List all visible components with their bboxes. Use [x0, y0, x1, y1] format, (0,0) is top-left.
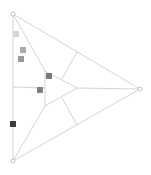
marker-1-square-marker — [13, 31, 19, 37]
diagram-svg — [0, 0, 151, 175]
vertex-right-circle-icon — [138, 87, 142, 91]
tick-lower-line — [62, 98, 77, 125]
marker-4-square-marker — [46, 73, 52, 79]
inner-tip-to-right-line — [77, 88, 140, 89]
marker-3-square-marker — [18, 56, 24, 62]
marker-2-square-marker — [20, 47, 26, 53]
marker-6-square-marker — [10, 121, 16, 127]
inner-lower-line — [45, 88, 77, 106]
top-to-inner-line — [13, 14, 45, 71]
diagram-lines — [13, 14, 140, 161]
vertex-top-circle-icon — [11, 12, 15, 16]
ternary-diagram — [0, 0, 151, 175]
tick-upper-line — [62, 52, 77, 79]
edge-top-right-line — [13, 14, 140, 89]
bottom-to-inner-line — [13, 106, 45, 161]
edge-right-bottom-line — [13, 89, 140, 161]
vertex-bottom-circle-icon — [11, 159, 15, 163]
marker-5-square-marker — [37, 87, 43, 93]
